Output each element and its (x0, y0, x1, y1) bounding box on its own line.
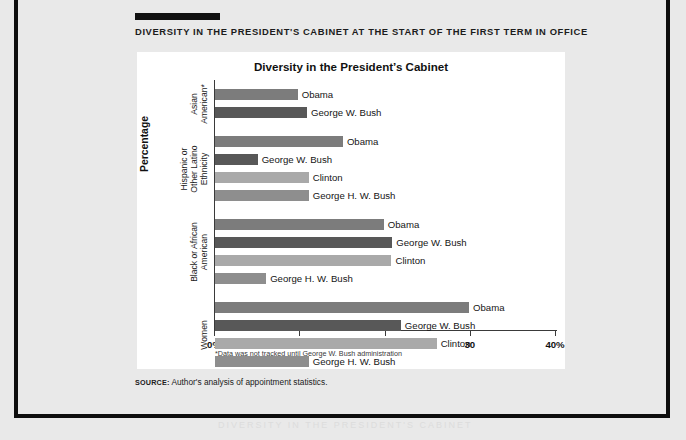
bar-label: Obama (384, 219, 419, 230)
bar-label: George W. Bush (307, 107, 381, 118)
x-tick (555, 331, 556, 336)
bar (215, 190, 309, 201)
group-label: Women (199, 282, 209, 387)
bar-label: George W. Bush (392, 237, 466, 248)
bar (215, 255, 391, 266)
source-line: SOURCE: Author's analysis of appointment… (135, 377, 655, 387)
chart-panel: Diversity in the President’s Cabinet Per… (137, 52, 565, 369)
bar (215, 320, 401, 331)
bar-label: Clinton (437, 338, 471, 349)
x-tick (214, 331, 215, 336)
ghost-text: DIVERSITY IN THE PRESIDENT'S CABINET (218, 420, 618, 430)
bar (215, 89, 298, 100)
page-background: DIVERSITY IN THE PRESIDENT'S CABINET AT … (18, 0, 666, 414)
plot-area: 0%10203040% ObamaGeorge W. BushObamaGeor… (214, 80, 557, 331)
bar (215, 219, 384, 230)
source-label: SOURCE: (135, 378, 170, 387)
bar-label: George H. W. Bush (309, 190, 396, 201)
bar (215, 107, 307, 118)
bar-label: Clinton (309, 172, 343, 183)
bar-label: George W. Bush (258, 154, 332, 165)
y-axis-label: Percentage (139, 116, 150, 172)
bar (215, 237, 392, 248)
bar (215, 136, 343, 147)
bar-label: George W. Bush (401, 320, 475, 331)
bar-label: Obama (298, 89, 333, 100)
bar-label: George H. W. Bush (266, 273, 353, 284)
bar (215, 338, 437, 349)
x-tick (299, 331, 300, 336)
header-rule (135, 13, 220, 20)
bar (215, 172, 309, 183)
source-text: Author's analysis of appointment statist… (170, 377, 328, 387)
chart-footnote: *Data was not tracked until George W. Bu… (215, 349, 402, 358)
bar (215, 273, 266, 284)
x-tick (470, 331, 471, 336)
bar-label: Clinton (391, 255, 425, 266)
bar-label: Obama (343, 136, 378, 147)
scanned-page: DIVERSITY IN THE PRESIDENT'S CABINET AT … (14, 0, 670, 418)
bar (215, 302, 469, 313)
bar (215, 154, 258, 165)
bar-label: Obama (469, 302, 504, 313)
x-tick-label: 40% (545, 339, 564, 350)
page-kicker: DIVERSITY IN THE PRESIDENT'S CABINET AT … (135, 26, 655, 37)
x-tick (385, 331, 386, 336)
